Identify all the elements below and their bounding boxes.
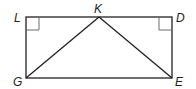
geometry-diagram: L K D G E [0, 0, 196, 89]
rectangle-LDEG [26, 17, 172, 78]
segment-GK [26, 17, 99, 78]
segment-KE [99, 17, 172, 78]
label-L: L [14, 11, 21, 25]
right-angle-marker-D [159, 17, 172, 30]
label-G: G [13, 75, 22, 89]
label-E: E [175, 75, 184, 89]
right-angle-marker-L [26, 17, 39, 30]
label-D: D [176, 11, 185, 25]
label-K: K [94, 2, 103, 16]
